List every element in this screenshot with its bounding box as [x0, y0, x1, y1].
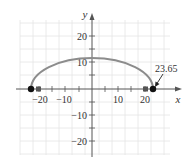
x-tick-label: 10 — [113, 94, 123, 105]
x-axis-label: x — [175, 93, 181, 105]
y-tick-label: −20 — [71, 136, 87, 147]
x-tick-label: 20 — [140, 94, 150, 105]
y-axis-arrow-icon — [90, 13, 95, 20]
endpoint-left — [28, 86, 34, 92]
x-tick-label: −20 — [32, 94, 48, 105]
marker-square-right — [143, 87, 148, 92]
y-tick-label: 20 — [77, 31, 87, 42]
x-tick-label: −10 — [56, 94, 72, 105]
x-axis-arrow-icon — [175, 87, 182, 92]
annotation-text: 23.65 — [155, 63, 178, 74]
chart: −20 −10 10 20 x 20 10 −10 −20 y — [0, 0, 190, 165]
y-tick-label: −10 — [71, 110, 87, 121]
y-axis-label: y — [82, 8, 88, 20]
y-axis: 20 10 −10 −20 y — [71, 8, 95, 157]
marker-square-left — [36, 87, 41, 92]
